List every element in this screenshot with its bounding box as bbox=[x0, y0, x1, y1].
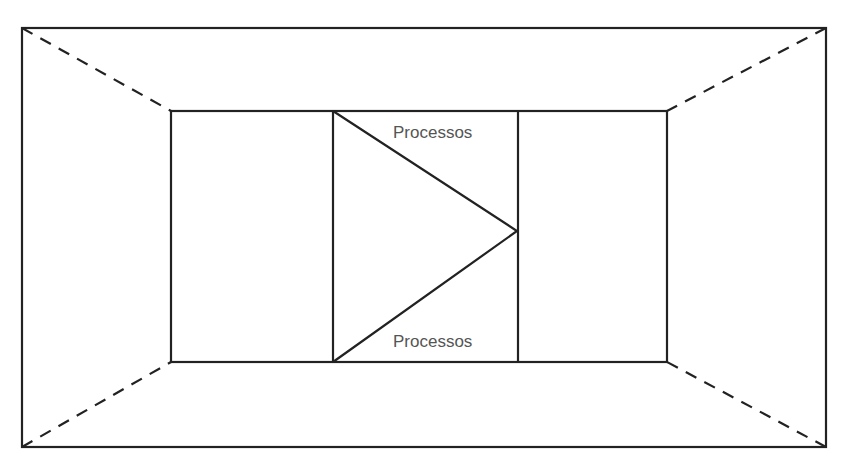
diagram-canvas bbox=[0, 0, 844, 466]
connector-bottom-left bbox=[22, 362, 171, 447]
connector-top-left bbox=[22, 28, 171, 111]
connector-bottom-right bbox=[667, 362, 826, 447]
inner-frame bbox=[171, 111, 667, 362]
connector-top-right bbox=[667, 28, 826, 111]
label-processos-bottom: Processos bbox=[393, 333, 472, 350]
label-processos-top: Processos bbox=[393, 124, 472, 141]
process-arrow-triangle bbox=[333, 111, 517, 362]
